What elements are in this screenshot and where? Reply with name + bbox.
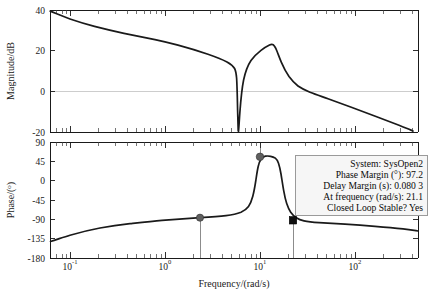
xtick-1e2: 102 [349, 257, 362, 272]
magnitude-ytick-20: 20 [36, 46, 46, 56]
datatip-at-frequency: At frequency (rad/s): 21.1 [299, 191, 423, 202]
x-axis-labels: 10-1 100 101 102 Frequency/(rad/s) [63, 257, 362, 290]
xtick-1e-1: 10-1 [63, 257, 78, 272]
phase-ytick-90: 90 [36, 138, 46, 148]
phase-marker-circle-left[interactable] [196, 214, 203, 221]
datatip-closed-loop-stable: Closed Loop Stable? Yes [299, 202, 423, 213]
phase-axis-label: Phase/(o) [5, 182, 17, 218]
phase-axis-label-tail: ) [5, 182, 17, 185]
phase-marker-square-gain-crossover[interactable] [289, 217, 296, 224]
phase-ytick-minus135: -135 [28, 234, 46, 244]
phase-ytick-minus180: -180 [28, 254, 46, 264]
phase-ytick-minus90: -90 [32, 215, 45, 225]
magnitude-ytick-minus20: -20 [32, 128, 45, 138]
phase-ytick-45: 45 [36, 157, 46, 167]
xtick-1e1: 101 [254, 257, 267, 272]
bode-plot-figure: 40 20 0 -20 Magnitude/dB [0, 0, 430, 298]
magnitude-ytick-0: 0 [40, 87, 45, 97]
bode-plot-canvas: 40 20 0 -20 Magnitude/dB [0, 0, 430, 298]
datatip-system: System: SysOpen2 [299, 158, 423, 169]
magnitude-panel: 40 20 0 -20 Magnitude/dB [5, 6, 418, 138]
magnitude-ytick-40: 40 [36, 6, 46, 16]
x-axis-label: Frequency/(rad/s) [198, 278, 269, 290]
phase-axis-label-main: Phase/( [5, 188, 17, 218]
magnitude-curve [50, 11, 413, 131]
magnitude-axis-label: Magnitude/dB [5, 42, 16, 100]
phase-marker-circle-peak[interactable] [256, 153, 264, 161]
datatip-annotation-box[interactable]: System: SysOpen2 Phase Margin (°): 97.2 … [295, 155, 428, 216]
phase-ytick-minus45: -45 [32, 196, 45, 206]
xtick-1e0: 100 [159, 257, 173, 272]
phase-ytick-0: 0 [40, 176, 45, 186]
datatip-phase-margin: Phase Margin (°): 97.2 [299, 169, 423, 180]
datatip-delay-margin: Delay Margin (s): 0.080 3 [299, 180, 423, 191]
